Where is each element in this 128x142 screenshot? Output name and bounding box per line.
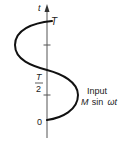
tick-label-half-T-num: T — [36, 72, 43, 82]
tick-label-zero: 0 — [37, 117, 42, 127]
sine-input-diagram: t T T 2 0 Input M sin ωt — [0, 0, 128, 142]
axis-arrow-icon — [45, 4, 50, 12]
tick-label-T: T — [51, 16, 58, 27]
tick-label-half-T-den: 2 — [36, 84, 41, 94]
input-formula: M sin ωt — [81, 97, 118, 107]
input-label: Input — [87, 86, 108, 96]
axis-label-t: t — [38, 3, 41, 13]
